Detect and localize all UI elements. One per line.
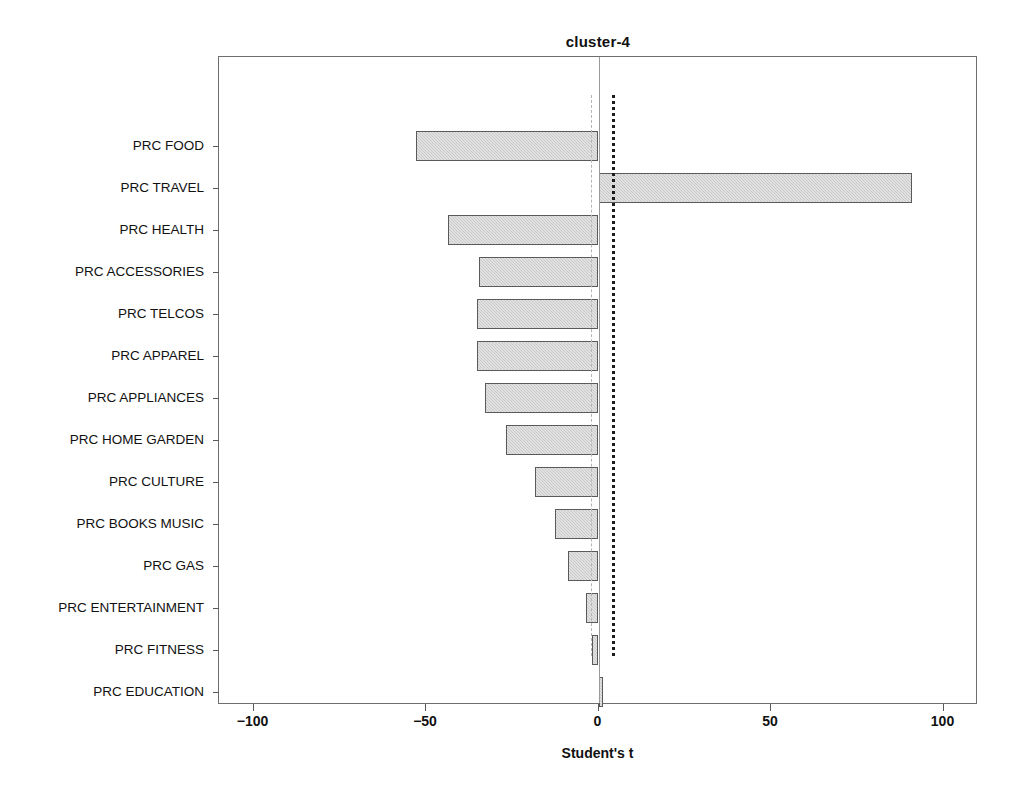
x-axis-tick-label: 100 (931, 713, 954, 729)
x-axis-tick (770, 704, 771, 711)
y-axis-tick-label: PRC TELCOS (118, 306, 204, 321)
y-axis-tick-label: PRC BOOKS MUSIC (76, 516, 204, 531)
y-axis-tick (213, 650, 219, 651)
y-axis-tick-label: PRC CULTURE (109, 474, 204, 489)
x-axis-tick-label: −100 (237, 713, 269, 729)
y-axis-tick (213, 188, 219, 189)
x-axis-tick (598, 704, 599, 711)
x-axis-tick (253, 704, 254, 711)
y-axis-tick-label: PRC HOME GARDEN (70, 432, 204, 447)
x-axis-tick-label: 50 (762, 713, 778, 729)
y-axis-tick (213, 314, 219, 315)
y-axis-ticks (219, 57, 976, 703)
y-axis-tick-label: PRC APPAREL (111, 348, 204, 363)
y-axis-tick-label: PRC EDUCATION (93, 684, 204, 699)
y-axis-tick-label: PRC HEALTH (119, 222, 204, 237)
y-axis-tick (213, 482, 219, 483)
y-axis-tick (213, 524, 219, 525)
y-axis-tick (213, 398, 219, 399)
y-axis-tick (213, 356, 219, 357)
y-axis-tick-label: PRC FOOD (133, 138, 204, 153)
page-title: cluster-4 (218, 33, 978, 50)
y-axis-tick (213, 230, 219, 231)
y-axis-tick-label: PRC GAS (143, 558, 204, 573)
y-axis-tick-label: PRC FITNESS (115, 642, 204, 657)
y-axis-tick-label: PRC ACCESSORIES (75, 264, 204, 279)
y-axis-tick (213, 146, 219, 147)
y-axis-tick (213, 692, 219, 693)
y-axis-labels: PRC FOODPRC TRAVELPRC HEALTHPRC ACCESSOR… (0, 56, 212, 704)
x-axis-tick-label: −50 (413, 713, 437, 729)
x-axis-tick (943, 704, 944, 711)
x-axis-tick-label: 0 (594, 713, 602, 729)
y-axis-tick (213, 608, 219, 609)
y-axis-tick (213, 440, 219, 441)
x-axis-tick (425, 704, 426, 711)
plot-area (218, 56, 977, 704)
y-axis-tick-label: PRC TRAVEL (120, 180, 204, 195)
y-axis-tick-label: PRC APPLIANCES (88, 390, 204, 405)
x-axis-title: Student's t (218, 745, 977, 761)
chart-figure: cluster-4 PRC FOODPRC TRAVELPRC HEALTHPR… (0, 0, 1027, 789)
y-axis-tick (213, 566, 219, 567)
y-axis-tick-label: PRC ENTERTAINMENT (58, 600, 204, 615)
y-axis-tick (213, 272, 219, 273)
